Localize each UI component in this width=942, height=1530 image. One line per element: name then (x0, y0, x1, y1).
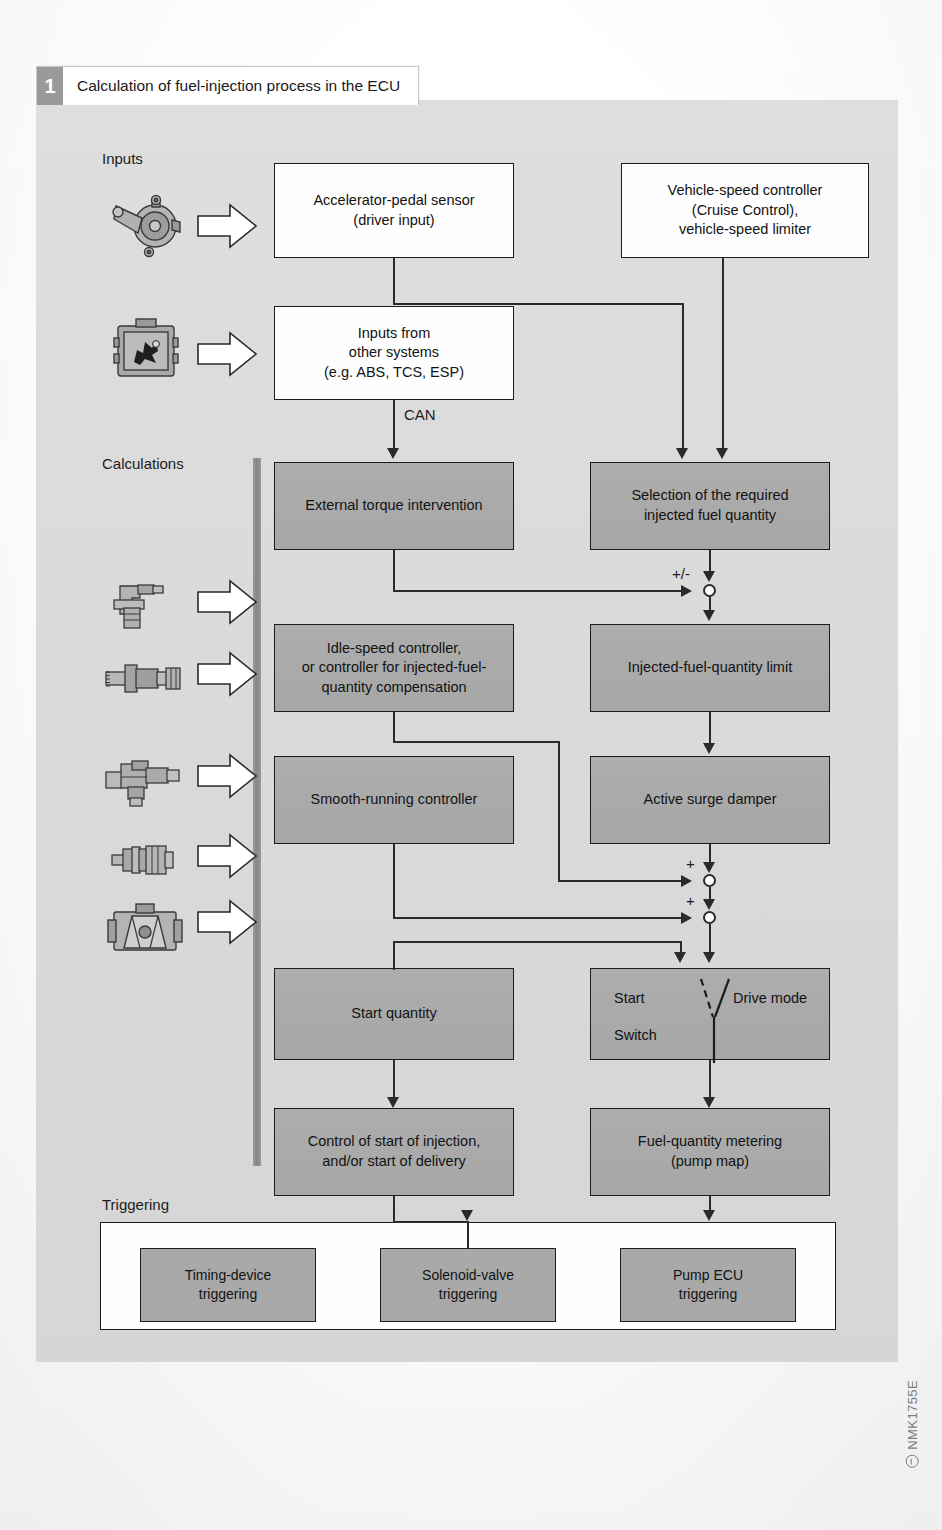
box-line-2: and/or start of delivery (322, 1153, 465, 1169)
connector-startqty-feed-down (393, 942, 395, 970)
box-pump-ecu-triggering[interactable]: Pump ECU triggering (620, 1248, 796, 1322)
box-external-torque-intervention[interactable]: External torque intervention (274, 462, 514, 550)
ecu-module-icon (112, 318, 182, 384)
connector-control-right (393, 1221, 468, 1223)
box-line-1: Vehicle-speed controller (668, 182, 823, 198)
box-line-2: (Cruise Control), (692, 202, 798, 218)
temperature-sensor-icon (104, 655, 184, 703)
box-line-3: vehicle-speed limiter (679, 221, 811, 237)
edge-label-can: CAN (404, 406, 436, 423)
box-line-1: Solenoid-valve (422, 1267, 514, 1283)
input-arrow-6 (196, 832, 258, 880)
section-label-inputs: Inputs (102, 150, 143, 167)
box-active-surge-damper[interactable]: Active surge damper (590, 756, 830, 844)
section-label-triggering: Triggering (102, 1196, 169, 1213)
edge-label-plus-2: + (686, 892, 695, 909)
connector-idle-to-junctionA (558, 880, 682, 882)
connector-ext-torque-down (393, 550, 395, 591)
box-line-2: other systems (349, 344, 439, 360)
figure-number-badge: 1 (37, 67, 63, 105)
accelerator-pedal-sensor-icon (108, 192, 186, 260)
connector-smooth-to-junctionB (393, 917, 682, 919)
arrowhead-apedal-to-selection (676, 448, 688, 459)
box-timing-device-triggering[interactable]: Timing-device triggering (140, 1248, 316, 1322)
switch-symbol[interactable] (680, 975, 750, 1069)
connector-junction1-down (709, 597, 711, 611)
box-solenoid-valve-triggering[interactable]: Solenoid-valve triggering (380, 1248, 556, 1322)
box-inputs-other-systems[interactable]: Inputs from other systems (e.g. ABS, TCS… (274, 306, 514, 400)
pressure-sensor-icon (104, 758, 184, 810)
box-line-2: (pump map) (671, 1153, 749, 1169)
arrowhead-switch-to-metering (703, 1097, 715, 1108)
summing-junction-2[interactable] (703, 874, 716, 887)
input-arrow-4 (196, 650, 258, 698)
input-arrow-5 (196, 752, 258, 800)
box-line-1: Inputs from (358, 325, 431, 341)
summing-junction-1[interactable] (703, 584, 716, 597)
arrowhead-to-start-branch (674, 952, 686, 963)
box-line-3: (e.g. ABS, TCS, ESP) (324, 364, 464, 380)
box-selection-required-injected-fuel-quantity[interactable]: Selection of the required injected fuel … (590, 462, 830, 550)
arrowhead-ext-torque-to-junction (681, 585, 692, 597)
connector-junctionB-down (709, 924, 711, 953)
box-injected-fuel-quantity-limit[interactable]: Injected-fuel-quantity limit (590, 624, 830, 712)
box-line-2: triggering (439, 1286, 497, 1302)
connector-smooth-down (393, 844, 395, 918)
connector-limit-down (709, 712, 711, 744)
box-line-2: triggering (679, 1286, 737, 1302)
box-line-1: Control of start of injection, (308, 1133, 480, 1149)
connector-control-down (393, 1196, 395, 1222)
box-line-2: triggering (199, 1286, 257, 1302)
arrowhead-junctionB-to-drivemode (703, 952, 715, 963)
arrowhead-vspeed-to-selection (716, 448, 728, 459)
connector-can-down (393, 400, 395, 449)
box-smooth-running-controller[interactable]: Smooth-running controller (274, 756, 514, 844)
summing-junction-3[interactable] (703, 911, 716, 924)
connector-idle-down2 (558, 741, 560, 881)
arrowhead-idle-to-junctionA (681, 875, 692, 887)
box-line-1: Selection of the required (631, 487, 788, 503)
connector-idle-right (393, 741, 559, 743)
box-line-1: Fuel-quantity metering (638, 1133, 782, 1149)
publisher-logo-icon (906, 1455, 919, 1468)
box-line-1: Start quantity (351, 1004, 436, 1024)
figure-title: Calculation of fuel-injection process in… (63, 67, 418, 105)
arrowhead-control-to-triggering (461, 1210, 473, 1221)
figure-code-text: NMK1755E (905, 1380, 920, 1450)
air-mass-meter-icon (106, 902, 184, 960)
box-line-1: Pump ECU (673, 1267, 743, 1283)
box-vehicle-speed-controller[interactable]: Vehicle-speed controller (Cruise Control… (621, 163, 869, 258)
input-arrow-3 (196, 578, 258, 626)
box-accelerator-pedal-sensor[interactable]: Accelerator-pedal sensor (driver input) (274, 163, 514, 258)
arrowhead-startqty-to-control (387, 1097, 399, 1108)
connector-startqty-down (393, 1060, 395, 1100)
connector-apedal-right (393, 303, 683, 305)
box-line-2: (driver input) (353, 212, 434, 228)
arrowhead-junctionA-to-junctionB (703, 899, 715, 910)
coolant-sensor-icon (110, 840, 182, 882)
connector-ext-torque-right (393, 590, 681, 592)
box-fuel-quantity-metering[interactable]: Fuel-quantity metering (pump map) (590, 1108, 830, 1196)
box-start-quantity[interactable]: Start quantity (274, 968, 514, 1060)
box-idle-speed-controller[interactable]: Idle-speed controller, or controller for… (274, 624, 514, 712)
section-label-calculations: Calculations (102, 455, 184, 472)
arrowhead-smooth-to-junctionB (681, 912, 692, 924)
box-line-1: Injected-fuel-quantity limit (628, 658, 792, 678)
edge-label-plus-minus: +/- (672, 565, 690, 582)
box-line-2: injected fuel quantity (644, 507, 776, 523)
figure-caption: 1 Calculation of fuel-injection process … (36, 66, 419, 105)
box-line-1: Timing-device (185, 1267, 272, 1283)
arrowhead-damper-to-junctionA (703, 862, 715, 873)
arrowhead-can-to-external-torque (387, 448, 399, 459)
arrowhead-limit-to-damper (703, 743, 715, 754)
connector-apedal-to-selection (682, 303, 684, 449)
connector-apedal-down (393, 258, 395, 304)
connector-switch-down (709, 1060, 711, 1100)
switch-start-label: Start (614, 990, 645, 1006)
arrowhead-selection-to-junction (703, 571, 715, 582)
box-control-start-of-injection[interactable]: Control of start of injection, and/or st… (274, 1108, 514, 1196)
input-arrow-1 (196, 202, 258, 250)
box-line-2: or controller for injected-fuel- (302, 659, 487, 675)
connector-vspeed-to-selection (722, 258, 724, 449)
box-line-3: quantity compensation (321, 679, 466, 695)
